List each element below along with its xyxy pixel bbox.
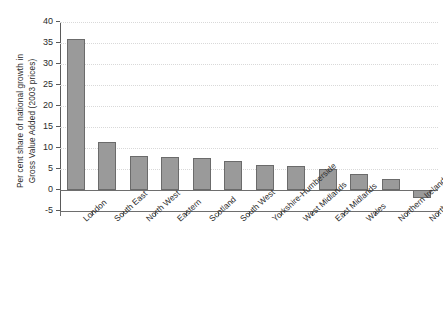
y-tick-label: 10: [43, 142, 53, 153]
y-axis-ticks: 4035302520151050-5: [0, 22, 60, 211]
x-tick-label: Scotland: [207, 216, 214, 223]
bar: [256, 165, 274, 190]
x-tick-label: East Midlands: [333, 216, 340, 223]
bars-layer: [60, 22, 438, 211]
x-tick-label: South West: [238, 216, 245, 223]
bar: [161, 157, 179, 190]
x-tick-label: London: [81, 216, 88, 223]
bar: [224, 161, 242, 190]
y-tick-label: -5: [45, 205, 53, 216]
y-tick-label: 25: [43, 79, 53, 90]
y-tick-label: 30: [43, 58, 53, 69]
x-tick-label: South East: [112, 216, 119, 223]
y-tick-label: 20: [43, 100, 53, 111]
x-tick-label: Northern Ireland: [396, 216, 403, 223]
y-tick-label: 0: [48, 184, 53, 195]
bar: [382, 179, 400, 190]
x-tick-label: Eastern: [175, 216, 182, 223]
bar: [67, 39, 85, 190]
bar: [193, 158, 211, 190]
plot-area: [60, 22, 438, 211]
x-tick-label: Yorkshire-Humberside: [270, 216, 277, 223]
bar-chart: Per cent share of national growth in Gro…: [0, 0, 443, 315]
y-tick-label: 5: [48, 163, 53, 174]
y-tick-label: 40: [43, 16, 53, 27]
x-axis-labels: LondonSouth EastNorth WestEasternScotlan…: [60, 216, 438, 315]
y-tick-label: 35: [43, 37, 53, 48]
y-tick-label: 15: [43, 121, 53, 132]
x-tick-label: Wales: [364, 216, 371, 223]
x-tick-label: North West: [144, 216, 151, 223]
bar: [98, 142, 116, 190]
bar: [130, 156, 148, 190]
x-tick-label: West Midlands: [301, 216, 308, 223]
x-tick-label: North East: [427, 216, 434, 223]
